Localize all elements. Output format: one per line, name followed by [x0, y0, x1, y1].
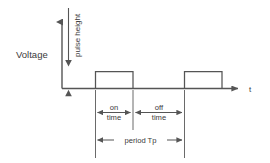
pulse-1 — [96, 72, 134, 89]
on-time-label-line1: on — [110, 103, 118, 112]
guide-lines — [96, 90, 185, 158]
pulse-height-arrow-up — [65, 90, 72, 97]
pulse-waveform-diagram: Voltage t pulse height on time off time … — [0, 0, 270, 163]
y-axis-label: Voltage — [16, 49, 48, 60]
pulse-height-dimension — [65, 8, 72, 96]
period-label-group: period Tp — [114, 133, 167, 147]
pulse-height-label: pulse height — [73, 13, 82, 57]
pulse-train-waveform — [96, 72, 223, 89]
pulse-2 — [185, 72, 223, 89]
period-label: period Tp — [125, 136, 157, 145]
off-time-label-line1: off — [155, 103, 164, 112]
diagram-canvas: Voltage t pulse height on time off time … — [0, 0, 270, 163]
pulse-height-arrow-down — [65, 60, 72, 67]
on-time-label-line2: time — [107, 113, 121, 122]
x-axis-label: t — [249, 85, 252, 94]
off-time-label-line2: time — [152, 113, 166, 122]
